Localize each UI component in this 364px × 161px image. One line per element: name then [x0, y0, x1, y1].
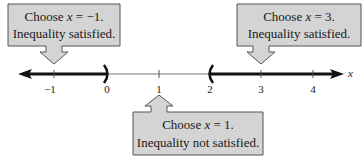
callout-right: Choose x = 3. Inequality satisfied.	[237, 4, 361, 64]
tick-label: 0	[104, 83, 110, 95]
svg-text:Choose x = 3.: Choose x = 3.	[263, 9, 335, 24]
tick-label: −1	[44, 83, 56, 95]
tick-label: 1	[156, 83, 162, 95]
svg-text:Choose x = −1.: Choose x = −1.	[25, 9, 104, 24]
svg-text:Choose x = 1.: Choose x = 1.	[162, 117, 234, 132]
axis-variable-label: x	[347, 67, 353, 79]
callout-left: Choose x = −1. Inequality satisfied.	[8, 4, 120, 64]
callout-left-line2: Inequality satisfied.	[13, 26, 116, 41]
callout-right-line2: Inequality satisfied.	[248, 26, 351, 41]
callout-bottom: Choose x = 1. Inequality not satisfied.	[133, 95, 263, 155]
diagram-canvas: x −1 0 1 2 3 4 Choose x = −1. Inequality…	[0, 0, 364, 161]
tick-label: 3	[258, 83, 264, 95]
callout-bottom-line2: Inequality not satisfied.	[137, 135, 259, 150]
tick-label: 4	[310, 83, 316, 95]
tick-label: 2	[207, 83, 213, 95]
number-line-diagram: x −1 0 1 2 3 4 Choose x = −1. Inequality…	[0, 0, 364, 161]
